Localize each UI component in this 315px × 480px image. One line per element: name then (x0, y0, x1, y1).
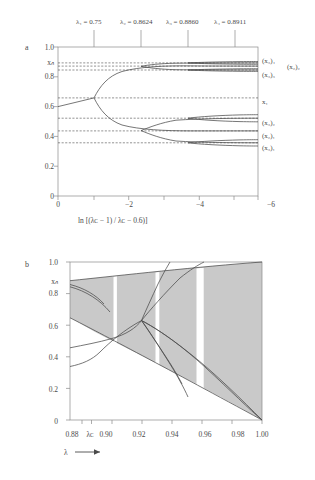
panel-a-x-ticks (58, 196, 258, 200)
figure-container: a λ₁ = 0.75 λ₂ = 0.8624 λ₃ = 0.8860 λ₄ =… (0, 0, 315, 480)
panel-a-y-ticks (54, 47, 58, 196)
panel-b: b 1.0 xₙ 0.8 0.6 0.4 0.2 0 0.88 λᴄ 0.90 … (0, 240, 315, 480)
panel-a: a λ₁ = 0.75 λ₂ = 0.8624 λ₃ = 0.8860 λ₄ =… (0, 0, 315, 240)
panel-a-plot (0, 0, 315, 240)
panel-a-top-ticks (94, 30, 235, 47)
panel-b-y-ticks (66, 262, 70, 420)
panel-b-plot (0, 240, 315, 480)
lambda-arrow-icon (75, 449, 100, 455)
panel-a-bifurcation-curves (58, 62, 258, 147)
